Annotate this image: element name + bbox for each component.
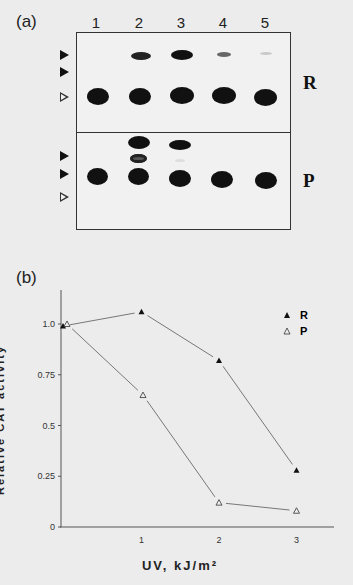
series-line [223, 366, 292, 464]
y-axis-label: Relative CAT activity [0, 345, 6, 495]
series-line [70, 313, 135, 325]
filled-triangle-marker-icon [139, 309, 145, 315]
x-axis-label: UV, kJ/m² [142, 558, 218, 573]
legend-r-label: R [300, 309, 308, 321]
open-triangle-marker-icon [294, 508, 300, 514]
filled-triangle-marker-icon [216, 358, 222, 364]
legend-filled-triangle-icon [284, 312, 290, 318]
x-tick-label: 3 [294, 535, 299, 545]
legend: R P [284, 309, 308, 337]
series-line [147, 401, 215, 497]
cat-activity-chart: 00.250.50.751.0 123 Relative CAT activit… [0, 0, 353, 585]
x-tick-label: 2 [216, 535, 221, 545]
y-tick-label: 0.5 [42, 421, 55, 431]
x-tick-label: 1 [139, 535, 144, 545]
series-line [226, 503, 290, 510]
legend-p-label: P [300, 325, 307, 337]
series-line [72, 329, 138, 390]
filled-triangle-marker-icon [294, 467, 300, 473]
open-triangle-marker-icon [140, 392, 146, 398]
legend-open-triangle-icon [284, 328, 290, 334]
y-tick-label: 0.75 [37, 370, 55, 380]
y-tick-label: 0.25 [37, 471, 55, 481]
series-line [147, 316, 213, 357]
open-triangle-marker-icon [64, 321, 70, 327]
open-triangle-marker-icon [216, 500, 222, 506]
y-tick-label: 1.0 [42, 319, 55, 329]
y-tick-label: 0 [50, 522, 55, 532]
